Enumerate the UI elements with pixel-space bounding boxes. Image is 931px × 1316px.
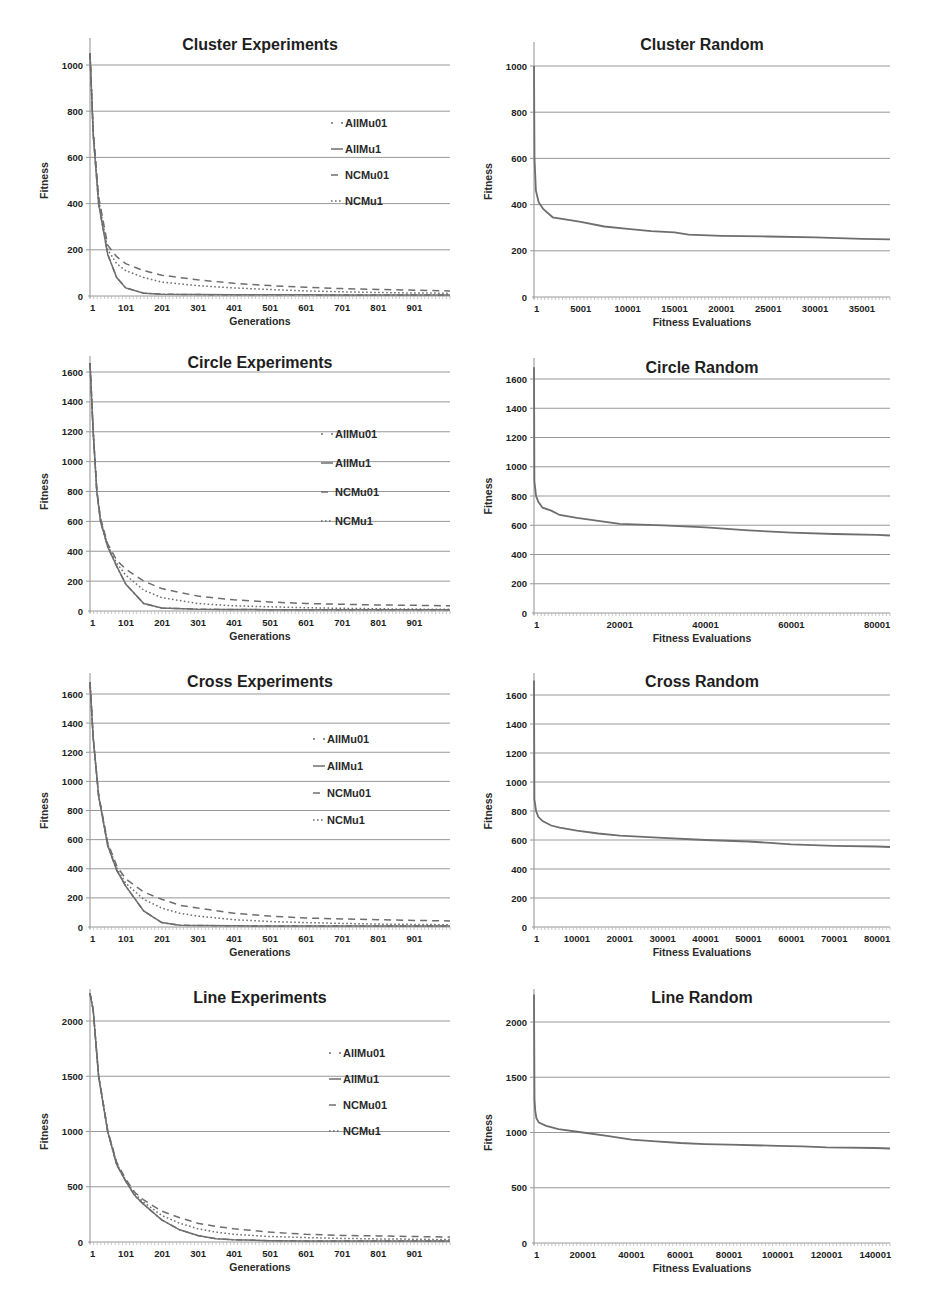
x-tick-label: 1 (534, 1249, 540, 1260)
legend-label: NCMu01 (343, 1099, 387, 1111)
x-tick-label: 140001 (860, 1249, 892, 1260)
chart-svg: Line Random05001000150020001200014000160… (465, 0, 931, 1316)
x-tick-label: 601 (298, 1248, 315, 1259)
chart-svg: Line Experiments050010001500200011012013… (0, 0, 466, 1316)
x-tick-label: 501 (262, 1248, 279, 1259)
x-tick-label: 301 (190, 1248, 207, 1259)
x-tick-label: 201 (154, 1248, 171, 1259)
chart-line-experiments: Line Experiments050010001500200011012013… (0, 0, 466, 1316)
y-tick-label: 2000 (62, 1016, 83, 1027)
y-tick-label: 0 (78, 1237, 83, 1248)
x-axis-label: Fitness Evaluations (653, 1262, 752, 1274)
y-tick-label: 0 (522, 1238, 527, 1249)
x-tick-label: 401 (226, 1248, 243, 1259)
x-tick-label: 901 (406, 1248, 423, 1259)
x-tick-label: 40001 (618, 1249, 645, 1260)
x-axis-label: Generations (229, 1261, 290, 1273)
y-tick-label: 2000 (506, 1017, 527, 1028)
y-tick-label: 1000 (506, 1127, 527, 1138)
x-tick-label: 701 (334, 1248, 351, 1259)
x-tick-label: 801 (370, 1248, 387, 1259)
y-tick-label: 1500 (506, 1072, 527, 1083)
series-line-ncmu1 (90, 993, 450, 1239)
chart-title: Line Experiments (193, 989, 326, 1006)
legend-label: NCMu1 (343, 1125, 381, 1137)
legend-label: AllMu01 (343, 1047, 385, 1059)
x-tick-label: 80001 (716, 1249, 743, 1260)
series-line-ncmu01 (90, 993, 450, 1237)
x-tick-label: 100001 (762, 1249, 794, 1260)
chart-line-random: Line Random05001000150020001200014000160… (465, 0, 931, 1316)
y-tick-label: 1000 (62, 1126, 83, 1137)
y-axis-label: Fitness (482, 1114, 494, 1151)
x-tick-label: 1 (90, 1248, 96, 1259)
series-line-allmu1 (90, 993, 450, 1241)
series-line-random (534, 994, 890, 1148)
y-tick-label: 500 (511, 1182, 527, 1193)
y-tick-label: 1500 (62, 1071, 83, 1082)
x-tick-label: 20001 (570, 1249, 597, 1260)
chart-title: Line Random (651, 989, 752, 1006)
x-tick-label: 60001 (667, 1249, 694, 1260)
y-tick-label: 500 (67, 1181, 83, 1192)
legend-label: AllMu1 (343, 1073, 379, 1085)
x-tick-label: 101 (118, 1248, 135, 1259)
x-tick-label: 120001 (811, 1249, 843, 1260)
legend: AllMu01AllMu1NCMu01NCMu1 (329, 1047, 387, 1137)
y-axis-label: Fitness (38, 1113, 50, 1150)
